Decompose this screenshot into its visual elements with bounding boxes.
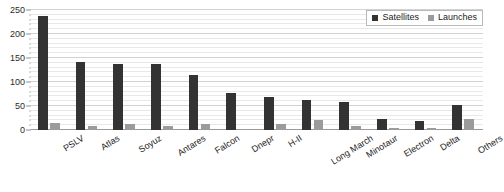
bar-satellites[interactable]	[189, 75, 199, 130]
bar-group	[257, 10, 295, 130]
bar-launches[interactable]	[201, 124, 211, 130]
bar-satellites[interactable]	[302, 100, 312, 130]
x-tick-label: Atlas	[99, 133, 121, 152]
x-tick-label: Falcon	[213, 133, 241, 156]
chart-legend: SatellitesLaunches	[366, 10, 483, 26]
bar-group	[106, 10, 144, 130]
legend-swatch-icon	[372, 15, 378, 21]
bar-group	[69, 10, 107, 130]
x-tick-label: H-II	[286, 133, 304, 149]
y-axis: 050100150200250	[0, 10, 31, 130]
bar-satellites[interactable]	[377, 119, 387, 130]
bar-launches[interactable]	[427, 128, 437, 130]
bar-group	[295, 10, 333, 130]
bar-group	[332, 10, 370, 130]
legend-item[interactable]: Satellites	[372, 13, 419, 22]
bar-satellites[interactable]	[38, 16, 48, 130]
bar-satellites[interactable]	[339, 102, 349, 130]
legend-label: Launches	[438, 13, 477, 22]
bar-satellites[interactable]	[151, 64, 161, 130]
bar-group	[182, 10, 220, 130]
bar-satellites[interactable]	[415, 121, 425, 130]
bar-group	[370, 10, 408, 130]
bar-satellites[interactable]	[452, 105, 462, 130]
bar-launches[interactable]	[125, 124, 135, 130]
legend-label: Satellites	[382, 13, 419, 22]
y-tick-label: 100	[10, 78, 25, 87]
bar-satellites[interactable]	[113, 64, 123, 130]
bar-launches[interactable]	[88, 126, 98, 130]
x-tick-label: Soyuz	[137, 133, 164, 155]
bar-group	[144, 10, 182, 130]
x-tick-label: Delta	[438, 133, 461, 153]
bar-satellites[interactable]	[76, 62, 86, 130]
legend-swatch-icon	[428, 15, 434, 21]
x-tick-label: Antares	[176, 133, 208, 158]
x-tick-label: Others	[476, 133, 504, 156]
bar-launches[interactable]	[276, 124, 286, 130]
bar-launches[interactable]	[50, 123, 60, 130]
x-tick-label: Dnepr	[250, 133, 276, 154]
bar-group	[31, 10, 69, 130]
bar-satellites[interactable]	[264, 97, 274, 130]
x-tick-label: Electron	[402, 133, 435, 159]
y-tick-label: 50	[15, 102, 25, 111]
bar-launches[interactable]	[238, 129, 248, 130]
bar-series-container	[31, 10, 483, 130]
bar-group	[445, 10, 483, 130]
y-tick-label: 0	[20, 126, 25, 135]
bar-satellites[interactable]	[226, 93, 236, 130]
y-tick-label: 250	[10, 6, 25, 15]
legend-item[interactable]: Launches	[428, 13, 477, 22]
bar-launches[interactable]	[351, 126, 361, 130]
bar-group	[408, 10, 446, 130]
bar-group	[219, 10, 257, 130]
y-tick-label: 200	[10, 30, 25, 39]
bar-launches[interactable]	[314, 120, 324, 130]
bar-launches[interactable]	[163, 126, 173, 130]
y-tick-label: 150	[10, 54, 25, 63]
bar-launches[interactable]	[464, 119, 474, 130]
x-tick-label: PSLV	[61, 133, 85, 153]
bar-launches[interactable]	[389, 128, 399, 130]
x-axis-labels: PSLVAtlasSoyuzAntaresFalconDneprH-IILong…	[31, 131, 483, 192]
